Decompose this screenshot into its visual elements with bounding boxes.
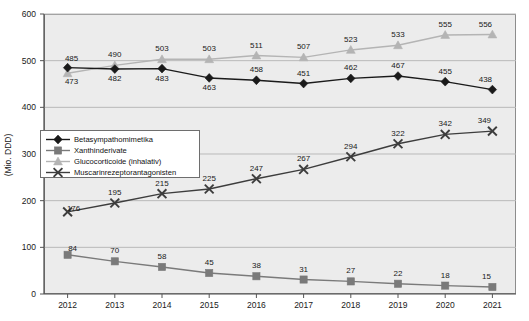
legend-item[interactable]: Muscarinrezeptorantagonisten (45, 167, 195, 178)
data-point-label: 342 (430, 120, 460, 128)
data-point-label: 18 (430, 272, 460, 280)
data-point-label: 38 (241, 262, 271, 270)
diamond-marker-icon (45, 134, 71, 145)
data-point-label: 31 (289, 266, 319, 274)
data-point-label: 463 (194, 84, 224, 92)
data-point-label: 84 (58, 245, 88, 253)
legend-item-label: Muscarinrezeptorantagonisten (74, 168, 176, 177)
data-point-label: 533 (383, 31, 413, 39)
data-point-label: 482 (100, 75, 130, 83)
data-point-label: 27 (336, 267, 366, 275)
data-point-label: 267 (289, 155, 319, 163)
data-point-label: 247 (241, 165, 271, 173)
data-point-label: 15 (471, 273, 501, 281)
square-marker-icon (45, 145, 71, 156)
data-point-label: 22 (383, 270, 413, 278)
data-point-label: 462 (336, 64, 366, 72)
data-point-label: 490 (100, 51, 130, 59)
data-point-label: 58 (147, 253, 177, 261)
data-point-label: 485 (57, 55, 87, 63)
data-point-label: 507 (289, 43, 319, 51)
data-point-label: 70 (100, 247, 130, 255)
legend-item-label: Glucocorticoide (inhalativ) (74, 157, 161, 166)
data-point-label: 467 (383, 62, 413, 70)
data-point-label: 511 (241, 42, 271, 50)
triangle-marker-icon (45, 156, 71, 167)
data-point-label: 483 (147, 75, 177, 83)
data-point-label: 215 (147, 180, 177, 188)
data-point-label: 473 (57, 78, 87, 86)
data-point-label: 322 (383, 130, 413, 138)
legend-item[interactable]: Glucocorticoide (inhalativ) (45, 156, 195, 167)
data-point-label: 523 (336, 36, 366, 44)
x-marker-icon (45, 167, 71, 178)
legend-item-label: Xanthinderivate (74, 146, 127, 155)
legend-item[interactable]: Betasympathomimetika (45, 134, 195, 145)
legend-item[interactable]: Xanthinderivate (45, 145, 195, 156)
data-point-label: 45 (194, 259, 224, 267)
data-point-label: 556 (470, 21, 500, 29)
data-point-label: 349 (469, 117, 499, 125)
chart-legend: BetasympathomimetikaXanthinderivateGluco… (40, 130, 200, 178)
data-point-label: 438 (470, 76, 500, 84)
data-point-label: 503 (194, 45, 224, 53)
data-point-label: 455 (430, 68, 460, 76)
data-point-label: 195 (100, 189, 130, 197)
data-point-label: 503 (147, 45, 177, 53)
data-point-label: 555 (430, 21, 460, 29)
data-point-label: 176 (59, 205, 89, 213)
line-chart: (Mio. DDD) 0100200300400500600 201220132… (0, 0, 529, 321)
data-point-label: 458 (241, 66, 271, 74)
data-point-label: 294 (336, 143, 366, 151)
data-point-label: 451 (289, 70, 319, 78)
legend-item-label: Betasympathomimetika (74, 135, 153, 144)
